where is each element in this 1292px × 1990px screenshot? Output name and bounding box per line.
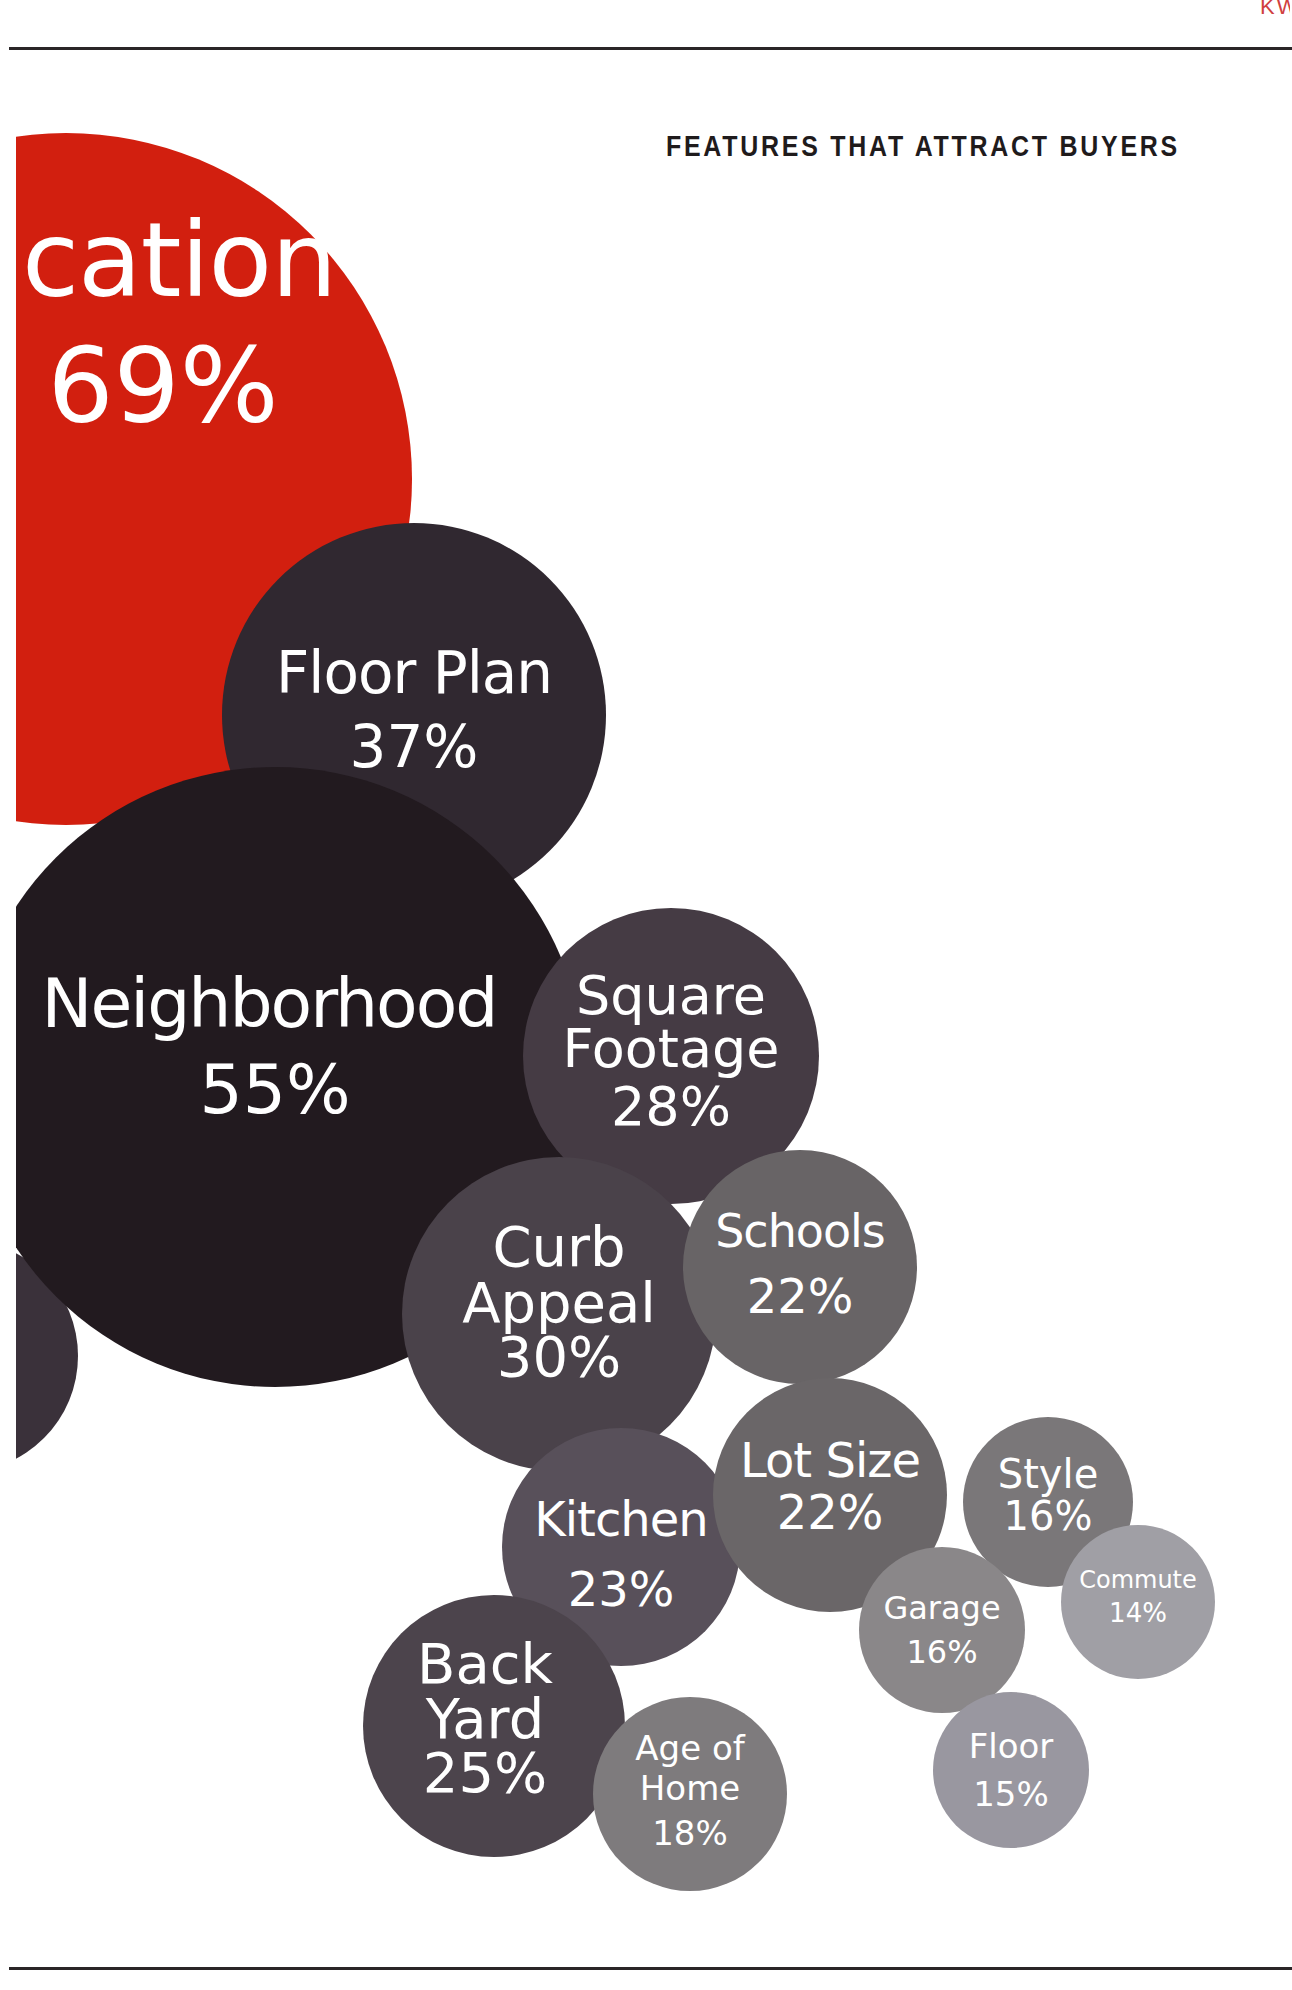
bubble-schools: Schools 22% [683, 1150, 917, 1384]
bubble-label: Garage [883, 1592, 1000, 1624]
bubble-age-of-home: Age of Home 18% [593, 1697, 787, 1891]
bubble-label: Floor [969, 1729, 1054, 1763]
bubble-value: 25% [423, 1745, 547, 1801]
bubble-label: Kitchen [534, 1495, 707, 1543]
bubble-label: Schools [715, 1208, 885, 1254]
bubble-label: Neighborhood [42, 970, 497, 1038]
bubble-label: Lot Size [740, 1436, 920, 1484]
bubble-label: Age of Home [635, 1728, 744, 1808]
bubble-label: Floor Plan [276, 644, 552, 702]
bubble-garage: Garage 16% [859, 1547, 1025, 1713]
bubble-floor: Floor 15% [933, 1692, 1089, 1848]
bubble-value: 16% [1004, 1496, 1093, 1536]
bubble-label: Style [998, 1454, 1098, 1494]
bubble-label: Back Yard [417, 1637, 553, 1747]
bubble-label: Square Footage [563, 970, 780, 1076]
bubble-label: Curb Appeal [462, 1219, 656, 1331]
bubble-value: 37% [350, 718, 479, 776]
bubble-value: 23% [568, 1565, 675, 1613]
bubble-value: 28% [611, 1080, 731, 1134]
bubble-value: 22% [747, 1272, 854, 1320]
bubble-back-yard: Back Yard 25% [363, 1595, 625, 1857]
bubble-chart: cation 69% Floor Plan 37% Neighborhood 5… [16, 0, 1292, 1990]
bubble-value: 15% [973, 1777, 1049, 1811]
bubble-value: 69% [47, 334, 278, 438]
bubble-curb-appeal: Curb Appeal 30% [402, 1157, 716, 1471]
bubble-label: cation [22, 208, 336, 312]
bubble-label: Commute [1079, 1568, 1197, 1592]
bubble-value: 16% [906, 1636, 977, 1668]
bubble-value: 22% [777, 1488, 884, 1536]
bubble-value: 55% [199, 1056, 350, 1124]
bottom-rule [9, 1967, 1292, 1970]
bubble-commute: Commute 14% [1061, 1525, 1215, 1679]
bubble-value: 18% [652, 1816, 728, 1850]
bubble-value: 30% [497, 1329, 621, 1385]
bubble-value: 14% [1109, 1600, 1167, 1626]
